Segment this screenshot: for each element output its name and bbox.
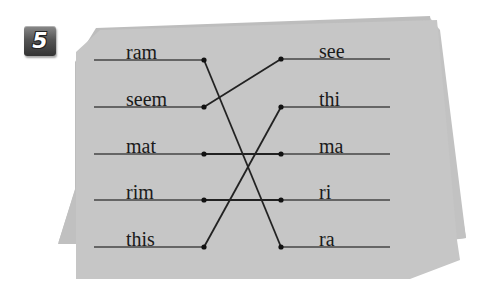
left-word: rim <box>126 182 154 202</box>
matching-exercise: 5 <box>0 0 496 285</box>
left-word: ram <box>126 42 157 62</box>
left-word: mat <box>126 136 156 156</box>
right-word: thi <box>319 89 340 109</box>
right-word: see <box>319 41 345 61</box>
paper-left-flap <box>58 186 76 244</box>
left-word: seem <box>126 89 167 109</box>
right-word: ma <box>319 136 343 156</box>
left-word: this <box>126 229 155 249</box>
right-word: ra <box>319 229 335 249</box>
worksheet-paper <box>0 0 496 285</box>
right-word: ri <box>319 182 331 202</box>
